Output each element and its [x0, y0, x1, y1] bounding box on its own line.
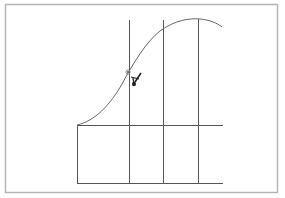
frame-border: [6, 5, 278, 193]
diagram-canvas: [0, 0, 285, 198]
